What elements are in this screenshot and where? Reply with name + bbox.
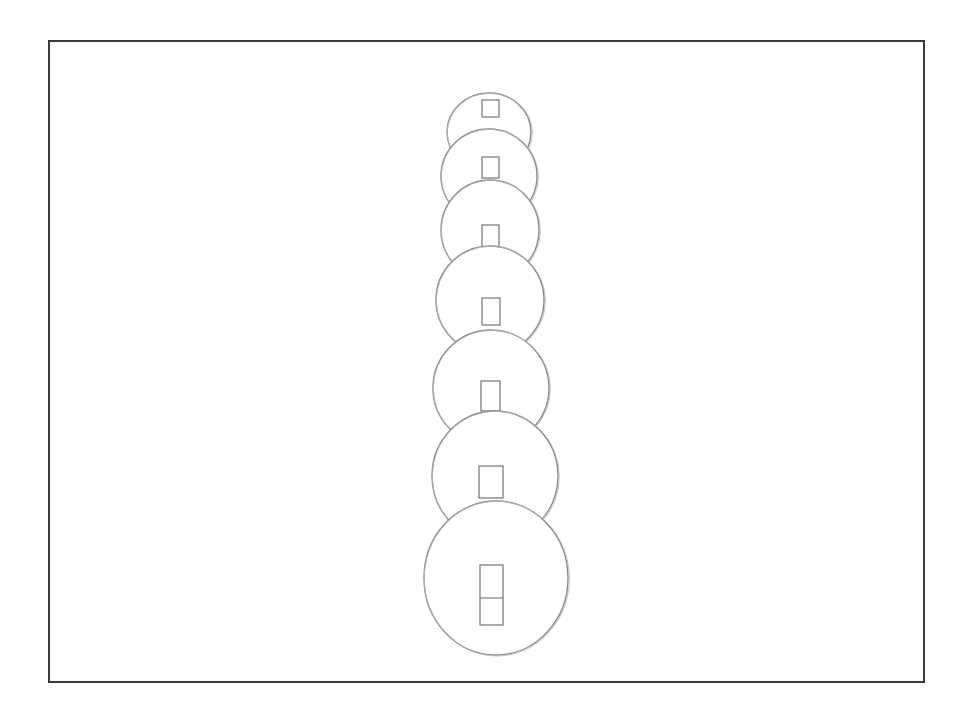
disc-stack xyxy=(424,93,569,656)
disc xyxy=(424,501,569,656)
stacked-discs-drawing xyxy=(0,0,972,713)
